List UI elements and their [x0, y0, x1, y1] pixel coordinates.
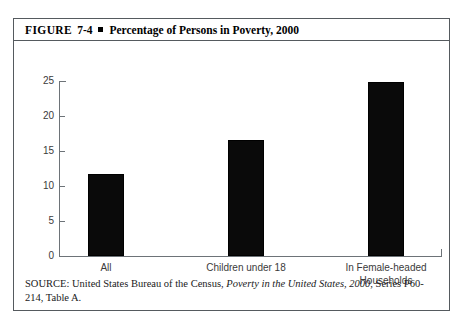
bar-3	[368, 82, 404, 256]
y-axis-tick-label: 5	[16, 215, 54, 226]
y-axis-tick	[59, 256, 65, 257]
y-axis-tick-label: 10	[16, 180, 54, 191]
source-title-italic: Poverty in the United States, 2000	[226, 278, 370, 289]
source-note: SOURCE: United States Bureau of the Cens…	[25, 277, 437, 305]
y-axis-tick-label-wrap: 20	[14, 110, 54, 122]
bar-2	[228, 140, 264, 256]
y-axis-tick	[59, 221, 65, 222]
plot-area: 0510152025AllChildren under 18In Female-…	[14, 41, 449, 273]
x-axis-category-label: All	[36, 262, 176, 275]
page-title: Percentage of Persons in Poverty, 2000	[109, 24, 299, 36]
y-axis-tick-label-wrap: 10	[14, 180, 54, 192]
source-prefix: SOURCE: United States Bureau of the Cens…	[25, 278, 224, 289]
y-axis-tick-label-wrap: 0	[14, 250, 54, 262]
y-axis-tick-label: 15	[16, 145, 54, 156]
y-axis-tick	[59, 116, 65, 117]
x-axis-category-label: Children under 18	[176, 262, 316, 275]
y-axis-tick-label-wrap: 5	[14, 215, 54, 227]
y-axis-tick	[59, 151, 65, 152]
y-axis-tick-label: 0	[16, 250, 54, 261]
y-axis-tick-label: 20	[16, 110, 54, 121]
y-axis-line	[59, 81, 60, 257]
y-axis-tick-label: 25	[16, 75, 54, 86]
bar-1	[88, 174, 124, 256]
x-axis-line	[59, 256, 442, 257]
figure-label: FIGURE	[25, 24, 72, 36]
y-axis-tick-label-wrap: 15	[14, 145, 54, 157]
figure-number: 7-4	[77, 24, 92, 36]
bar-chart: 0510152025AllChildren under 18In Female-…	[14, 41, 449, 273]
x-axis-end-cap	[441, 249, 442, 257]
y-axis-tick	[59, 81, 65, 82]
y-axis-tick	[59, 186, 65, 187]
figure-frame: FIGURE 7-4 Percentage of Persons in Pove…	[13, 18, 450, 311]
y-axis-tick-label-wrap: 25	[14, 75, 54, 87]
square-bullet-icon	[98, 27, 103, 32]
figure-header: FIGURE 7-4 Percentage of Persons in Pove…	[14, 19, 449, 41]
